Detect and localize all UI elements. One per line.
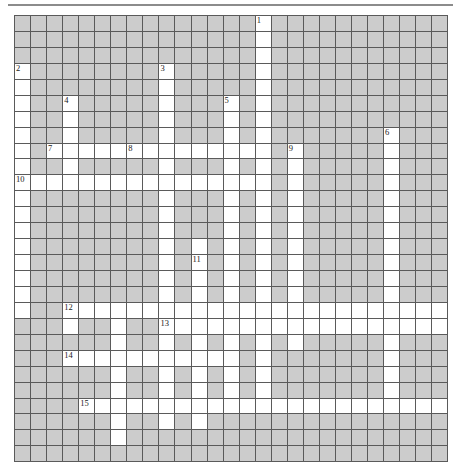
crossword-cell-open[interactable] xyxy=(255,223,271,239)
crossword-cell-open[interactable] xyxy=(239,175,255,191)
crossword-cell-open[interactable] xyxy=(111,366,127,382)
crossword-cell-open[interactable] xyxy=(287,159,303,175)
crossword-cell-open[interactable] xyxy=(143,350,159,366)
crossword-cell-open[interactable] xyxy=(111,430,127,446)
crossword-cell-open[interactable] xyxy=(79,302,95,318)
crossword-cell-open[interactable] xyxy=(400,318,416,334)
crossword-cell-open[interactable] xyxy=(143,143,159,159)
crossword-cell-open[interactable] xyxy=(15,223,31,239)
crossword-cell-open[interactable] xyxy=(207,318,223,334)
crossword-cell-open[interactable] xyxy=(143,302,159,318)
crossword-cell-open[interactable] xyxy=(159,302,175,318)
crossword-cell-open[interactable] xyxy=(191,271,207,287)
crossword-cell-open[interactable] xyxy=(255,191,271,207)
crossword-cell-open[interactable] xyxy=(223,111,239,127)
crossword-cell-open[interactable] xyxy=(368,398,384,414)
crossword-cell-open[interactable] xyxy=(159,79,175,95)
crossword-cell-open[interactable] xyxy=(15,95,31,111)
crossword-cell-open[interactable] xyxy=(335,318,351,334)
crossword-cell-open[interactable] xyxy=(111,302,127,318)
crossword-cell-open[interactable] xyxy=(255,318,271,334)
crossword-cell-open[interactable]: 10 xyxy=(15,175,31,191)
crossword-cell-open[interactable] xyxy=(351,398,367,414)
crossword-cell-open[interactable] xyxy=(191,175,207,191)
crossword-cell-open[interactable] xyxy=(319,318,335,334)
crossword-cell-open[interactable] xyxy=(271,318,287,334)
crossword-cell-open[interactable] xyxy=(63,159,79,175)
crossword-cell-open[interactable] xyxy=(319,302,335,318)
crossword-cell-open[interactable]: 14 xyxy=(63,350,79,366)
crossword-cell-open[interactable] xyxy=(319,398,335,414)
crossword-cell-open[interactable]: 2 xyxy=(15,63,31,79)
crossword-cell-open[interactable] xyxy=(15,191,31,207)
crossword-cell-open[interactable] xyxy=(287,255,303,271)
crossword-cell-open[interactable] xyxy=(15,79,31,95)
crossword-cell-open[interactable] xyxy=(287,302,303,318)
crossword-cell-open[interactable] xyxy=(159,255,175,271)
crossword-cell-open[interactable] xyxy=(255,366,271,382)
crossword-cell-open[interactable] xyxy=(335,302,351,318)
crossword-cell-open[interactable] xyxy=(223,207,239,223)
crossword-cell-open[interactable] xyxy=(335,398,351,414)
crossword-cell-open[interactable] xyxy=(31,175,47,191)
crossword-cell-open[interactable] xyxy=(384,159,400,175)
crossword-cell-open[interactable] xyxy=(416,318,432,334)
crossword-cell-open[interactable] xyxy=(255,207,271,223)
crossword-cell-open[interactable] xyxy=(111,382,127,398)
crossword-cell-open[interactable] xyxy=(15,286,31,302)
crossword-cell-open[interactable] xyxy=(159,414,175,430)
crossword-cell-open[interactable] xyxy=(384,191,400,207)
crossword-cell-open[interactable]: 4 xyxy=(63,95,79,111)
crossword-cell-open[interactable] xyxy=(143,175,159,191)
crossword-cell-open[interactable] xyxy=(255,382,271,398)
crossword-cell-open[interactable] xyxy=(255,302,271,318)
crossword-cell-open[interactable] xyxy=(159,286,175,302)
crossword-cell-open[interactable] xyxy=(159,223,175,239)
crossword-cell-open[interactable]: 7 xyxy=(47,143,63,159)
crossword-cell-open[interactable] xyxy=(287,334,303,350)
crossword-cell-open[interactable] xyxy=(255,143,271,159)
crossword-cell-open[interactable] xyxy=(432,398,448,414)
crossword-cell-open[interactable] xyxy=(63,111,79,127)
crossword-cell-open[interactable] xyxy=(191,318,207,334)
crossword-cell-open[interactable] xyxy=(223,223,239,239)
crossword-cell-open[interactable] xyxy=(255,271,271,287)
crossword-cell-open[interactable] xyxy=(384,175,400,191)
crossword-cell-open[interactable] xyxy=(63,143,79,159)
crossword-cell-open[interactable] xyxy=(159,207,175,223)
crossword-cell-open[interactable] xyxy=(15,302,31,318)
crossword-cell-open[interactable] xyxy=(287,271,303,287)
crossword-cell-open[interactable] xyxy=(15,111,31,127)
crossword-cell-open[interactable] xyxy=(287,239,303,255)
crossword-cell-open[interactable] xyxy=(159,350,175,366)
crossword-cell-open[interactable] xyxy=(351,318,367,334)
crossword-cell-open[interactable] xyxy=(384,143,400,159)
crossword-cell-open[interactable] xyxy=(159,366,175,382)
crossword-cell-open[interactable] xyxy=(255,79,271,95)
crossword-cell-open[interactable] xyxy=(191,414,207,430)
crossword-cell-open[interactable] xyxy=(416,398,432,414)
crossword-grid-container[interactable]: 123456789101112131415 xyxy=(14,15,448,462)
crossword-cell-open[interactable]: 1 xyxy=(255,16,271,32)
crossword-cell-open[interactable] xyxy=(384,318,400,334)
crossword-cell-open[interactable] xyxy=(159,239,175,255)
crossword-cell-open[interactable] xyxy=(384,286,400,302)
crossword-cell-open[interactable] xyxy=(287,286,303,302)
crossword-cell-open[interactable] xyxy=(223,334,239,350)
crossword-cell-open[interactable] xyxy=(15,255,31,271)
crossword-cell-open[interactable] xyxy=(255,95,271,111)
crossword-cell-open[interactable] xyxy=(287,175,303,191)
crossword-cell-open[interactable] xyxy=(384,350,400,366)
crossword-cell-open[interactable] xyxy=(175,398,191,414)
crossword-cell-open[interactable] xyxy=(351,302,367,318)
crossword-cell-open[interactable] xyxy=(223,191,239,207)
crossword-cell-open[interactable] xyxy=(223,239,239,255)
crossword-cell-open[interactable] xyxy=(207,143,223,159)
crossword-grid[interactable]: 123456789101112131415 xyxy=(14,15,448,462)
crossword-cell-open[interactable] xyxy=(255,239,271,255)
crossword-cell-open[interactable] xyxy=(255,47,271,63)
crossword-cell-open[interactable] xyxy=(127,398,143,414)
crossword-cell-open[interactable] xyxy=(223,318,239,334)
crossword-cell-open[interactable] xyxy=(384,255,400,271)
crossword-cell-open[interactable] xyxy=(63,318,79,334)
